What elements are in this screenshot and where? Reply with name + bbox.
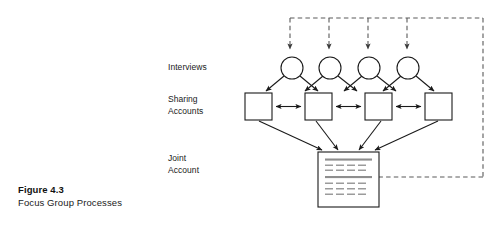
figure-caption-title: Figure 4.3 <box>18 183 208 196</box>
figure-container: Interviews Sharing Accounts Joint Accoun… <box>0 0 503 237</box>
arrow-square-1-to-joint <box>259 121 322 150</box>
document-heading-bar-2 <box>325 176 372 178</box>
row-label-sharing-accounts: Sharing Accounts <box>168 94 203 117</box>
circle-node-icon[interactable] <box>358 57 380 79</box>
sharing-to-joint-arrows <box>259 121 438 150</box>
square-node-icon[interactable] <box>245 93 272 120</box>
square-node-icon[interactable] <box>305 93 332 120</box>
square-node-icon[interactable] <box>425 93 452 120</box>
circle-node-icon[interactable] <box>397 57 419 79</box>
square-node-icon[interactable] <box>365 93 392 120</box>
arrow-interview-4-right <box>416 76 434 91</box>
row-label-interviews: Interviews <box>168 62 207 74</box>
arrow-square-4-to-joint <box>375 121 438 150</box>
figure-caption-subtitle: Focus Group Processes <box>18 196 208 209</box>
arrow-interview-2-to-square-2 <box>305 76 323 91</box>
figure-caption: Figure 4.3 Focus Group Processes <box>18 183 208 209</box>
row-label-joint-account: Joint Account <box>168 153 199 176</box>
circle-node-icon[interactable] <box>281 57 303 79</box>
arrow-square-2-to-joint <box>316 121 338 150</box>
document-node-icon[interactable] <box>318 152 379 207</box>
document-heading-bar <box>325 159 372 161</box>
feedback-branch-group <box>290 18 407 49</box>
arrow-interview-1-to-square-1 <box>266 76 284 91</box>
arrow-square-3-to-joint <box>359 121 381 150</box>
arrow-interview-1-right <box>300 76 318 91</box>
interview-node-group <box>281 57 419 79</box>
circle-node-icon[interactable] <box>319 57 341 79</box>
